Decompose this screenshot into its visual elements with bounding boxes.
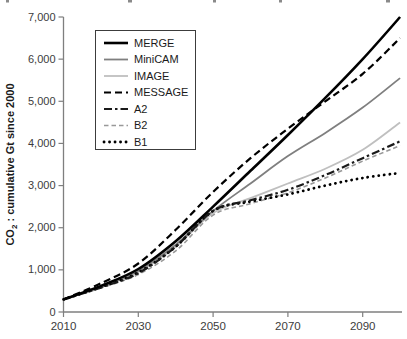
x-tick-label: 2090 bbox=[350, 320, 376, 332]
series-line-a2 bbox=[64, 141, 401, 299]
y-tick-label: 4,000 bbox=[28, 137, 56, 149]
y-tick-label: 2,000 bbox=[28, 221, 56, 233]
legend-label-image: IMAGE bbox=[134, 70, 169, 82]
cropped-caption-fragment bbox=[386, 0, 390, 3]
legend-label-b2: B2 bbox=[134, 119, 147, 131]
y-tick-label: 0 bbox=[49, 306, 55, 318]
legend-label-b1: B1 bbox=[134, 136, 147, 148]
x-tick-label: 2030 bbox=[126, 320, 152, 332]
x-tick-label: 2070 bbox=[275, 320, 301, 332]
cropped-caption-fragment bbox=[128, 0, 132, 3]
cropped-caption-fragment bbox=[279, 0, 282, 3]
y-axis-label: CO2 : cumulative Gt since 2000 bbox=[4, 83, 19, 245]
cropped-caption-fragment bbox=[213, 0, 216, 3]
cropped-caption-fragment bbox=[6, 0, 9, 3]
legend-label-merge: MERGE bbox=[134, 37, 174, 49]
co2-scenarios-figure: 01,0002,0003,0004,0005,0006,0007,0002010… bbox=[0, 0, 407, 339]
y-tick-label: 3,000 bbox=[28, 179, 56, 191]
x-tick-label: 2010 bbox=[51, 320, 77, 332]
legend-label-minicam: MiniCAM bbox=[134, 53, 179, 65]
co2-cumulative-line-chart: 01,0002,0003,0004,0005,0006,0007,0002010… bbox=[0, 0, 407, 339]
x-tick-label: 2050 bbox=[200, 320, 226, 332]
y-tick-label: 5,000 bbox=[28, 95, 56, 107]
y-tick-label: 7,000 bbox=[28, 11, 56, 23]
legend: MERGEMiniCAMIMAGEMESSAGEA2B2B1 bbox=[96, 31, 196, 150]
legend-label-a2: A2 bbox=[134, 103, 147, 115]
y-tick-label: 1,000 bbox=[28, 263, 56, 275]
y-tick-label: 6,000 bbox=[28, 53, 56, 65]
legend-label-message: MESSAGE bbox=[134, 86, 188, 98]
